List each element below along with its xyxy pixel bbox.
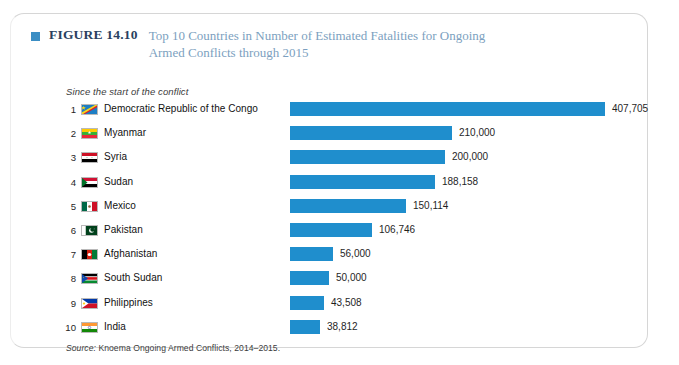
chart-row: 4Sudan188,158	[11, 174, 679, 198]
row-country-label: Afghanistan	[104, 248, 157, 259]
row-rank: 7	[59, 249, 76, 260]
row-bar	[290, 150, 445, 164]
row-bar	[290, 247, 333, 261]
chart-row: 6Pakistan106,746	[11, 222, 679, 246]
figure-frame: FIGURE 14.10 Top 10 Countries in Number …	[10, 13, 648, 348]
row-country-label: Sudan	[104, 176, 133, 187]
flag-mexico-icon	[81, 201, 98, 212]
flag-philippines-icon	[81, 298, 98, 309]
row-bar	[290, 126, 452, 140]
row-country-label: Philippines	[104, 297, 153, 308]
row-value-label: 188,158	[442, 176, 478, 187]
chart-row: 3Syria200,000	[11, 149, 679, 173]
row-country-label: India	[104, 321, 126, 332]
row-rank: 4	[59, 177, 76, 188]
row-rank: 6	[59, 225, 76, 236]
row-rank: 2	[59, 128, 76, 139]
figure-title: Top 10 Countries in Number of Estimated …	[149, 27, 489, 61]
row-bar	[290, 223, 372, 237]
figure-label: FIGURE 14.10	[49, 27, 138, 43]
row-value-label: 56,000	[340, 248, 371, 259]
chart-row: 10India38,812	[11, 319, 679, 343]
row-bar	[290, 320, 320, 334]
bar-chart: 1Democratic Republic of the Congo407,705…	[11, 101, 679, 343]
flag-myanmar-icon	[81, 128, 98, 139]
row-bar	[290, 199, 406, 213]
chart-row: 1Democratic Republic of the Congo407,705	[11, 101, 679, 125]
chart-row: 7Afghanistan56,000	[11, 246, 679, 270]
blue-square-icon	[31, 32, 40, 41]
row-bar	[290, 296, 324, 310]
row-rank: 10	[59, 322, 76, 333]
row-value-label: 200,000	[452, 151, 488, 162]
chart-row: 5Mexico150,114	[11, 198, 679, 222]
row-country-label: Myanmar	[104, 127, 146, 138]
row-value-label: 210,000	[459, 127, 495, 138]
chart-source: Source: Knoema Ongoing Armed Conflicts, …	[66, 343, 280, 353]
flag-south-sudan-icon	[81, 273, 98, 284]
chart-row: 9Philippines43,508	[11, 295, 679, 319]
row-value-label: 407,705	[612, 103, 648, 114]
row-country-label: Democratic Republic of the Congo	[104, 103, 258, 114]
row-value-label: 106,746	[379, 224, 415, 235]
row-value-label: 50,000	[336, 272, 367, 283]
flag-afghanistan-icon	[81, 249, 98, 260]
row-value-label: 38,812	[327, 321, 358, 332]
flag-syria-icon	[81, 152, 98, 163]
row-country-label: Pakistan	[104, 224, 143, 235]
row-rank: 9	[59, 298, 76, 309]
row-country-label: Mexico	[104, 200, 136, 211]
chart-row: 2Myanmar210,000	[11, 125, 679, 149]
row-rank: 3	[59, 152, 76, 163]
source-label: Source:	[66, 343, 96, 353]
row-value-label: 150,114	[413, 200, 448, 211]
figure-header: FIGURE 14.10 Top 10 Countries in Number …	[31, 27, 629, 61]
row-country-label: Syria	[104, 151, 127, 162]
row-country-label: South Sudan	[104, 272, 162, 283]
flag-pakistan-icon	[81, 225, 98, 236]
source-text: Knoema Ongoing Armed Conflicts, 2014–201…	[96, 343, 280, 353]
row-bar	[290, 271, 329, 285]
row-bar	[290, 102, 605, 116]
row-rank: 5	[59, 201, 76, 212]
chart-subtitle: Since the start of the conflict	[66, 86, 188, 97]
row-rank: 8	[59, 273, 76, 284]
flag-india-icon	[81, 322, 98, 333]
row-bar	[290, 175, 435, 189]
row-value-label: 43,508	[331, 297, 362, 308]
flag-sudan-icon	[81, 177, 98, 188]
chart-row: 8South Sudan50,000	[11, 270, 679, 294]
flag-drc-icon	[81, 104, 98, 115]
row-rank: 1	[59, 104, 76, 115]
